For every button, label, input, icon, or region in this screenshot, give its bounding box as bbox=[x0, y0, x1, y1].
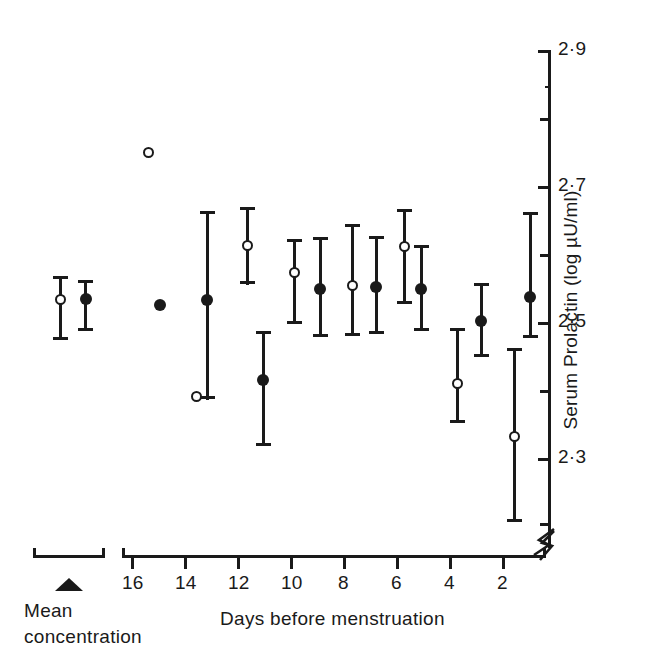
x-tick-6 bbox=[396, 558, 399, 569]
data-point-open-day15 bbox=[143, 147, 154, 158]
errorbar-cap-top-open-day3 bbox=[450, 328, 465, 331]
x-tick-label-10: 10 bbox=[281, 572, 303, 594]
x-tick-label-8: 8 bbox=[338, 572, 349, 594]
errorbar-cap-bottom-filled-day8 bbox=[369, 331, 384, 334]
errorbar-cap-bottom-open-day10 bbox=[287, 321, 302, 324]
x-tick-4 bbox=[449, 558, 452, 569]
data-point-open-day14-low bbox=[191, 391, 202, 402]
errorbar-filled-day1 bbox=[529, 214, 532, 338]
errorbar-cap-top-filled-day3 bbox=[474, 283, 489, 286]
mean-open-errorbar bbox=[59, 276, 62, 339]
mean-open-errorbar-cap-top bbox=[53, 276, 68, 279]
mean-filled-errorbar-cap-top bbox=[78, 280, 93, 283]
y-tick-major-2-9 bbox=[538, 50, 551, 53]
data-point-filled-day11 bbox=[257, 374, 269, 386]
errorbar-cap-bottom-filled-day11 bbox=[256, 443, 271, 446]
y-axis-title: Serum Prolactin (log µU/ml) bbox=[560, 150, 582, 470]
x-axis-left-cap bbox=[122, 548, 125, 558]
y-tick-label-2-9: 2·9 bbox=[558, 38, 586, 60]
x-tick-8 bbox=[343, 558, 346, 569]
mean-panel-bracket-line bbox=[33, 555, 105, 558]
data-point-open-day10 bbox=[289, 267, 300, 278]
data-point-filled-day8 bbox=[370, 281, 382, 293]
x-tick-14 bbox=[184, 558, 187, 569]
errorbar-cap-bottom-open-day6 bbox=[397, 301, 412, 304]
errorbar-cap-bottom-open-day1 bbox=[507, 519, 522, 522]
data-point-filled-day14 bbox=[154, 299, 166, 311]
errorbar-cap-bottom-filled-day5 bbox=[414, 328, 429, 331]
data-point-filled-day5 bbox=[415, 283, 427, 295]
x-tick-label-12: 12 bbox=[228, 572, 250, 594]
errorbar-cap-top-open-day1 bbox=[507, 348, 522, 351]
data-point-filled-day1 bbox=[524, 291, 536, 303]
x-tick-2 bbox=[502, 558, 505, 569]
x-axis-break-icon bbox=[530, 525, 564, 559]
data-point-open-day12 bbox=[242, 240, 253, 251]
x-tick-12 bbox=[237, 558, 240, 569]
data-point-open-day8 bbox=[347, 280, 358, 291]
errorbar-cap-top-filled-day5 bbox=[414, 245, 429, 248]
x-tick-10 bbox=[290, 558, 293, 569]
x-tick-label-14: 14 bbox=[175, 572, 197, 594]
y-tick-minor-2-85 bbox=[545, 86, 551, 88]
errorbar-cap-top-open-day6 bbox=[397, 209, 412, 212]
mean-panel-label-line1: Mean bbox=[24, 600, 73, 622]
errorbar-cap-bottom-open-day12 bbox=[240, 281, 255, 284]
y-axis-line bbox=[548, 50, 551, 548]
errorbar-cap-top-open-day12 bbox=[240, 207, 255, 210]
data-point-open-day3 bbox=[452, 378, 463, 389]
data-point-open-day1 bbox=[509, 431, 520, 442]
errorbar-cap-top-filled-day9 bbox=[313, 237, 328, 240]
y-tick-minor-2-4 bbox=[540, 390, 551, 393]
x-axis-title: Days before menstruation bbox=[220, 608, 445, 630]
errorbar-filled-day13 bbox=[206, 213, 209, 400]
mean-filled-errorbar bbox=[84, 280, 87, 330]
y-tick-major-2-7 bbox=[538, 186, 551, 189]
x-tick-label-6: 6 bbox=[391, 572, 402, 594]
data-point-filled-day9 bbox=[314, 283, 326, 295]
mean-filled-errorbar-cap-bottom bbox=[78, 328, 93, 331]
x-tick-16 bbox=[131, 558, 134, 569]
x-tick-label-4: 4 bbox=[444, 572, 455, 594]
errorbar-open-day10 bbox=[293, 240, 296, 324]
errorbar-cap-top-filled-day8 bbox=[369, 236, 384, 239]
mean-panel-bracket-right-cap bbox=[102, 548, 105, 558]
errorbar-cap-bottom-filled-day1 bbox=[523, 335, 538, 338]
mean-open-errorbar-cap-bottom bbox=[53, 337, 68, 340]
errorbar-open-day6 bbox=[403, 211, 406, 304]
y-tick-major-2-3 bbox=[538, 458, 551, 461]
errorbar-cap-top-open-day8 bbox=[345, 224, 360, 227]
errorbar-cap-bottom-filled-day3 bbox=[474, 354, 489, 357]
errorbar-cap-top-filled-day1 bbox=[523, 212, 538, 215]
errorbar-cap-bottom-filled-day13 bbox=[200, 396, 215, 399]
errorbar-cap-top-open-day10 bbox=[287, 239, 302, 242]
mean-open-circle-point bbox=[55, 294, 66, 305]
data-point-open-day6 bbox=[399, 241, 410, 252]
x-tick-label-2: 2 bbox=[497, 572, 508, 594]
chart-canvas: 2·9 2·7 2·5 2·3 Serum Prolactin (log µU/… bbox=[0, 0, 648, 667]
y-tick-minor-2-8 bbox=[540, 118, 551, 121]
data-point-filled-day13 bbox=[201, 294, 213, 306]
errorbar-cap-top-filled-day13 bbox=[200, 211, 215, 214]
mean-filled-circle-point bbox=[80, 293, 92, 305]
mean-marker-triangle-icon bbox=[55, 578, 83, 591]
y-tick-major-2-5 bbox=[538, 322, 551, 325]
mean-panel-bracket-left-cap bbox=[33, 548, 36, 558]
errorbar-cap-bottom-open-day8 bbox=[345, 333, 360, 336]
y-tick-minor-2-6 bbox=[540, 254, 551, 257]
errorbar-cap-bottom-open-day3 bbox=[450, 420, 465, 423]
errorbar-filled-day11 bbox=[262, 333, 265, 446]
errorbar-cap-bottom-filled-day9 bbox=[313, 334, 328, 337]
x-tick-label-16: 16 bbox=[122, 572, 144, 594]
errorbar-open-day3 bbox=[456, 330, 459, 423]
mean-panel-label-line2: concentration bbox=[24, 626, 142, 648]
data-point-filled-day3 bbox=[475, 315, 487, 327]
errorbar-cap-top-filled-day11 bbox=[256, 331, 271, 334]
